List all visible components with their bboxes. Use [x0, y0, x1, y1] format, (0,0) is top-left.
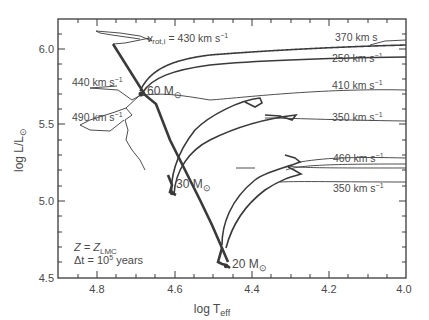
y-axis-ticks: [58, 34, 406, 262]
svg-text:5.5: 5.5: [39, 118, 54, 130]
y-axis-title: log L/L⊙: [12, 128, 28, 172]
x-axis-title: log Teff: [194, 302, 231, 318]
model-params-annotation: Z = ZLMC Δt = 105 years: [73, 241, 144, 266]
label-350-upper: 350 km s−1: [332, 111, 383, 123]
label-20-msun: 20 M⊙: [232, 257, 267, 273]
y-tick-labels: 6.0 5.5 5.0 4.5: [39, 43, 54, 284]
svg-text:6.0: 6.0: [39, 43, 54, 55]
label-460: 460 km s−1: [333, 152, 384, 164]
mass-labels: 60 M⊙ 30 M⊙ 20 M⊙: [147, 84, 267, 273]
svg-text:4.6: 4.6: [167, 283, 182, 295]
svg-text:5.0: 5.0: [39, 195, 54, 207]
svg-text:4.2: 4.2: [321, 283, 336, 295]
timestep-label: Δt = 105 years: [74, 254, 144, 266]
x-tick-labels: 4.8 4.6 4.4 4.2 4.0: [89, 283, 411, 295]
label-490: 490 km s−1: [72, 111, 123, 123]
tracks: [80, 31, 406, 268]
label-30-msun: 30 M⊙: [176, 177, 211, 193]
label-60-msun: 60 M⊙: [147, 84, 182, 100]
svg-text:4.0: 4.0: [396, 283, 411, 295]
svg-text:4.8: 4.8: [89, 283, 104, 295]
label-250: 250 km s−1: [332, 52, 383, 64]
label-350-lower: 350 km s−1: [333, 182, 384, 194]
label-vrot-430: vrot,i = 430 km s−1: [147, 32, 228, 46]
svg-text:4.4: 4.4: [244, 283, 259, 295]
svg-text:4.5: 4.5: [39, 272, 54, 284]
label-410: 410 km s−1: [332, 79, 383, 91]
hr-diagram-chart: 4.8 4.6 4.4 4.2 4.0 6.0 5.5 5.0 4.5 log …: [0, 0, 429, 320]
label-370: 370 km s: [335, 31, 378, 43]
